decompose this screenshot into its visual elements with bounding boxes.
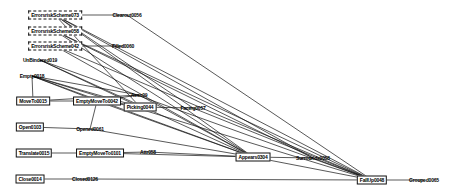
graph-node[interactable]: Picking0044 xyxy=(124,103,157,112)
graph-edge xyxy=(55,31,253,157)
graph-edge xyxy=(193,108,372,180)
graph-node[interactable]: Open0103 xyxy=(16,123,44,132)
graph-node[interactable]: EmptyMoveTo0101 xyxy=(76,149,124,158)
graph-node[interactable]: Grouped0065 xyxy=(408,177,440,184)
graph-node[interactable]: Clearout0056 xyxy=(111,12,142,19)
graph-node[interactable]: Attr058 xyxy=(139,149,157,156)
graph-node[interactable]: Facing0057 xyxy=(179,105,206,112)
diagram-canvas: ErrorsriskScheme073ErrorsriskScheme058Er… xyxy=(0,0,456,194)
graph-node[interactable]: EmptyMoveTo0042 xyxy=(73,97,121,106)
graph-node[interactable]: UnBindered019 xyxy=(22,57,58,64)
graph-edge xyxy=(55,15,313,158)
graph-node[interactable]: FallUp0048 xyxy=(357,176,387,185)
graph-node[interactable]: Surrounds0056 xyxy=(295,155,331,162)
graph-edge xyxy=(85,179,372,180)
graph-node[interactable]: ErrorsriskScheme073 xyxy=(28,11,82,20)
graph-edge xyxy=(55,15,253,157)
graph-node[interactable]: Empty0018 xyxy=(19,73,46,80)
graph-edge xyxy=(40,60,372,180)
graph-node[interactable]: Filled0060 xyxy=(111,43,135,50)
graph-node[interactable]: Appears0304 xyxy=(236,153,271,162)
graph-node[interactable]: ErrorsriskScheme042 xyxy=(28,42,82,51)
graph-node[interactable]: Close0014 xyxy=(16,175,45,184)
graph-node[interactable]: Translate0015 xyxy=(16,149,52,158)
graph-node[interactable]: Assn09 xyxy=(130,92,149,99)
graph-node[interactable]: ErrorsriskScheme058 xyxy=(28,27,82,36)
graph-node[interactable]: Closed0126 xyxy=(71,176,99,183)
graph-node[interactable]: MoveTo0015 xyxy=(16,97,50,106)
graph-node[interactable]: Opened0061 xyxy=(75,126,105,133)
